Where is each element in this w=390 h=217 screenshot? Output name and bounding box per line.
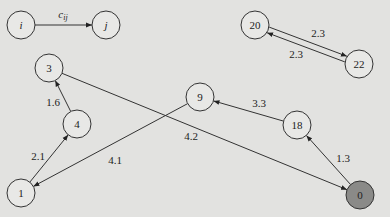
node-i: i [7,11,35,39]
edge-weight-label: 3.3 [252,97,266,109]
node-label: 1 [18,187,24,199]
node-0: 0 [346,181,374,209]
node-j: j [92,11,120,39]
node-label: 22 [354,58,365,70]
node-20: 20 [241,11,269,39]
node-1: 1 [7,179,35,207]
node-9: 9 [186,83,214,111]
node-label: 9 [197,91,203,103]
node-label: 4 [74,118,80,130]
edge-weight-label: 1.3 [336,152,350,164]
edge-weight-label: 2.1 [31,150,45,162]
node-label: 0 [357,189,363,201]
edge-weight-label: 4.1 [108,154,122,166]
node-22: 22 [345,50,373,78]
node-18: 18 [283,111,311,139]
node-label: 18 [292,119,304,131]
edge-weight-label: 2.3 [289,48,303,60]
node-label: 20 [250,19,262,31]
edge-weight-label: 2.3 [311,27,325,39]
node-label: i [19,19,22,31]
node-label: 3 [46,62,52,74]
edge-weight-label: 4.2 [184,130,198,142]
graph-diagram: ij20223491810 cij2.32.31.62.14.14.23.31.… [0,0,390,217]
node-4: 4 [63,110,91,138]
node-3: 3 [35,54,63,82]
edge-weight-label: 1.6 [46,96,60,108]
